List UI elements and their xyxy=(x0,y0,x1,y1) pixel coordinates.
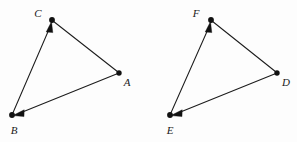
vertex-label-d: D xyxy=(282,77,290,88)
vertex-label-a: A xyxy=(124,77,131,88)
edge-e-to-f xyxy=(170,27,209,115)
triangle-def xyxy=(167,17,280,118)
vertex-label-b: B xyxy=(11,125,18,136)
vertex-dot-f xyxy=(208,17,214,23)
vertex-dot-c xyxy=(49,17,55,23)
arrowhead-at-c xyxy=(46,22,53,33)
vertex-dot-b xyxy=(9,112,15,118)
geometry-figure: A B C D E F xyxy=(0,0,297,142)
edge-a-to-b xyxy=(20,73,119,113)
edge-b-to-c xyxy=(12,27,50,115)
edge-c-to-a xyxy=(53,21,118,72)
vertex-label-c: C xyxy=(34,8,41,19)
arrowhead-at-f xyxy=(205,22,212,33)
triangle-abc xyxy=(9,17,122,118)
vertex-label-e: E xyxy=(167,125,174,136)
edge-d-to-e xyxy=(178,73,277,113)
vertex-label-f: F xyxy=(193,8,200,19)
edge-f-to-d xyxy=(212,21,276,72)
vertex-dot-a xyxy=(116,70,121,75)
figure-canvas xyxy=(0,0,297,142)
vertex-dot-d xyxy=(274,70,279,75)
vertex-dot-e xyxy=(167,112,173,118)
